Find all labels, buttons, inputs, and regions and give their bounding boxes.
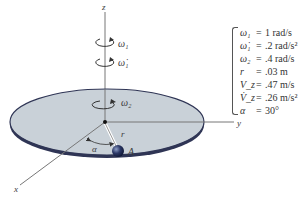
given-symbol: V̇_z [240, 92, 256, 103]
omega1-label: ω₁ [118, 38, 129, 49]
given-value: .26 m/s² [265, 92, 297, 103]
given-row: ω₂=.4 rad/s [240, 53, 294, 64]
given-value: .47 m/s [265, 79, 294, 90]
given-symbol: V_z [240, 79, 256, 90]
alpha-label: α [92, 144, 97, 154]
given-row: α=30° [240, 105, 279, 116]
given-symbol: ω̇₁ [240, 40, 256, 51]
given-row: ω̇₁=.2 rad/s² [240, 40, 297, 51]
given-row: V̇_z=.26 m/s² [240, 92, 297, 103]
omega1-dot-label: ω̇₁ [118, 57, 129, 68]
point-A-label: A [127, 146, 135, 157]
y-axis-label: y [236, 118, 241, 128]
given-symbol: ω₁ [240, 27, 256, 38]
brace [232, 27, 238, 115]
given-value: 30° [265, 105, 279, 116]
x-axis-label: x [13, 184, 18, 194]
ball-A [112, 145, 124, 157]
given-row: ω₁=1 rad/s [240, 27, 292, 38]
z-axis-label: z [101, 2, 106, 12]
given-row: V_z=.47 m/s [240, 79, 294, 90]
given-symbol: α [240, 105, 256, 116]
given-value: .03 m [265, 66, 288, 77]
pivot-point [103, 120, 107, 124]
given-symbol: ω₂ [240, 53, 256, 64]
given-symbol: r [240, 66, 256, 77]
given-row: r=.03 m [240, 66, 288, 77]
given-value: .4 rad/s [265, 53, 294, 64]
given-value: 1 rad/s [265, 27, 292, 38]
r-label: r [121, 129, 125, 139]
omega2-label: ω₂ [121, 97, 132, 108]
given-value: .2 rad/s² [265, 40, 297, 51]
